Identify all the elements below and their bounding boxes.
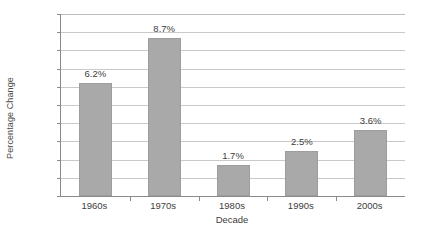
x-axis-tick-mark xyxy=(130,197,131,201)
y-axis-title: Percentage Change xyxy=(0,0,20,236)
y-axis-tick-mark xyxy=(57,123,61,124)
x-axis-category-label: 2000s xyxy=(340,200,400,211)
gridline xyxy=(61,87,405,88)
x-axis-tick-mark xyxy=(199,197,200,201)
y-axis-tick-mark xyxy=(57,105,61,106)
bar xyxy=(354,130,387,196)
bar xyxy=(285,151,318,197)
bar-value-label: 2.5% xyxy=(277,137,327,147)
x-axis-category-label: 1980s xyxy=(202,200,262,211)
y-axis-tick-mark xyxy=(57,160,61,161)
bar-value-label: 3.6% xyxy=(346,116,396,126)
x-axis-title: Decade xyxy=(60,214,404,225)
x-axis-category-label: 1970s xyxy=(133,200,193,211)
x-axis-tick-mark xyxy=(336,197,337,201)
bar-value-label: 6.2% xyxy=(70,69,120,79)
y-axis-tick-mark xyxy=(57,50,61,51)
x-axis-category-label: 1960s xyxy=(64,200,124,211)
y-axis-tick-mark xyxy=(57,69,61,70)
y-axis-tick-mark xyxy=(57,141,61,142)
plot-area: 10%9%8%7%6%5%4%3%2%1%0% 6.2%8.7%1.7%2.5%… xyxy=(60,14,405,197)
y-axis-tick-mark xyxy=(57,14,61,15)
y-axis-tick-mark xyxy=(57,32,61,33)
gridline xyxy=(61,50,405,51)
y-axis-tick-mark xyxy=(57,87,61,88)
gridline xyxy=(61,14,405,15)
bar xyxy=(79,83,112,196)
bar-value-label: 8.7% xyxy=(139,24,189,34)
bar-value-label: 1.7% xyxy=(208,151,258,161)
y-axis-tick-mark xyxy=(57,178,61,179)
gridline xyxy=(61,105,405,106)
gridline xyxy=(61,32,405,33)
x-axis-tick-mark xyxy=(267,197,268,201)
x-axis-category-label: 1990s xyxy=(271,200,331,211)
bar-chart: Percentage Change 10%9%8%7%6%5%4%3%2%1%0… xyxy=(0,0,424,236)
bar xyxy=(217,165,250,196)
bar xyxy=(148,38,181,196)
y-axis-tick-mark xyxy=(57,196,61,197)
